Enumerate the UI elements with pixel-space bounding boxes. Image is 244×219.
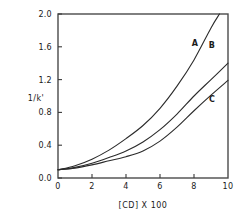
curve-label-c: C (209, 95, 215, 104)
y-tick-label: 0.4 (38, 141, 52, 150)
chart-figure: 0.00.40.81.21.62.0 0246810 ABC 1/k' [CD]… (0, 0, 244, 219)
curve-label-b: B (209, 41, 215, 50)
y-tick-label: 1.6 (38, 43, 52, 52)
chart-background (0, 0, 244, 219)
x-tick-label: 10 (223, 182, 234, 191)
x-tick-label: 0 (55, 182, 60, 191)
y-tick-label: 0.8 (38, 108, 52, 117)
y-tick-label: 2.0 (38, 10, 52, 19)
x-tick-label: 8 (191, 182, 196, 191)
x-tick-label: 6 (157, 182, 162, 191)
plot-svg: 0.00.40.81.21.62.0 0246810 ABC 1/k' [CD]… (0, 0, 244, 219)
x-tick-label: 4 (123, 182, 128, 191)
curve-label-a: A (192, 39, 199, 48)
x-axis-title: [CD] X 100 (119, 201, 168, 210)
x-tick-label: 2 (89, 182, 94, 191)
y-tick-label: 1.2 (38, 76, 52, 85)
y-axis-title: 1/k' (28, 94, 45, 103)
y-tick-label: 0.0 (38, 174, 52, 183)
